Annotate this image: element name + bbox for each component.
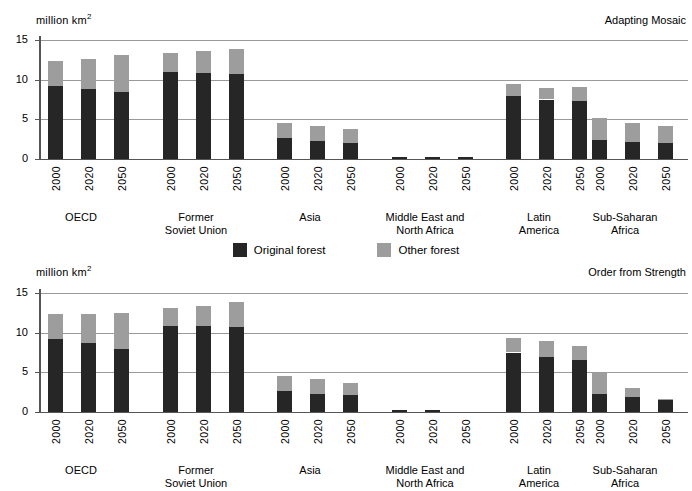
x-axis-tick-label-year: 2020	[312, 166, 324, 191]
legend-label-original-forest: Original forest	[254, 244, 326, 256]
bar-segment-other-forest	[48, 314, 63, 339]
y-axis-line	[39, 36, 41, 160]
bar-segment-original-forest	[343, 395, 358, 412]
bar-segment-other-forest	[539, 88, 554, 100]
y-axis-tick-label: 5	[4, 366, 28, 377]
bar-segment-original-forest	[163, 72, 178, 159]
x-axis-tick-label-year: 2000	[594, 166, 606, 191]
bar-segment-original-forest	[114, 349, 129, 412]
x-axis-tick-label-year: 2050	[116, 166, 128, 191]
bar-segment-original-forest	[506, 96, 521, 159]
x-axis-tick-label-year: 2020	[541, 419, 553, 444]
bar-segment-other-forest	[114, 313, 129, 349]
x-axis-group-label: OECD	[21, 211, 141, 224]
x-axis-tick-label-year: 2000	[165, 166, 177, 191]
x-axis-tick-label-year: 2020	[198, 166, 210, 191]
x-axis-tick-label-year: 2000	[279, 166, 291, 191]
bar-segment-other-forest	[277, 123, 292, 137]
bar-segment-original-forest	[163, 326, 178, 412]
legend-swatch-other-forest	[377, 243, 391, 257]
legend-entry-original-forest: Original forest	[233, 243, 326, 257]
gridline	[40, 293, 688, 294]
bar-segment-other-forest	[229, 302, 244, 327]
x-axis-tick-label-year: 2020	[627, 166, 639, 191]
x-axis-tick-label-year: 2050	[660, 419, 672, 444]
bar-segment-other-forest	[196, 51, 211, 73]
bar-segment-original-forest	[539, 100, 554, 160]
x-axis-group-label: OECD	[21, 464, 141, 477]
bar-segment-original-forest	[48, 86, 63, 159]
gridline	[40, 119, 688, 120]
y-axis-tick-label: 10	[4, 74, 28, 85]
bar-segment-original-forest	[310, 394, 325, 412]
bar-segment-other-forest	[163, 308, 178, 325]
x-axis-tick-label-year: 2000	[279, 419, 291, 444]
bar-segment-other-forest	[114, 55, 129, 92]
x-axis-group-label: Middle East and North Africa	[365, 211, 485, 237]
y-axis-tick-label: 5	[4, 113, 28, 124]
bar-segment-other-forest	[625, 123, 640, 143]
x-axis-tick-label-year: 2050	[231, 419, 243, 444]
bar-segment-other-forest	[343, 383, 358, 396]
y-axis-tick-label: 0	[4, 406, 28, 417]
x-axis-tick-label-year: 2000	[508, 419, 520, 444]
x-axis-tick-label-year: 2020	[427, 166, 439, 191]
legend-swatch-original-forest	[233, 243, 247, 257]
bar-segment-other-forest	[81, 314, 96, 343]
x-axis-group-label: Sub-Saharan Africa	[565, 464, 685, 490]
bar-segment-original-forest	[572, 360, 587, 412]
bar-segment-original-forest	[114, 92, 129, 159]
x-axis-tick-label-year: 2000	[165, 419, 177, 444]
bar-segment-original-forest	[81, 89, 96, 159]
x-axis-tick-label-year: 2000	[394, 166, 406, 191]
gridline	[40, 40, 688, 41]
x-axis-tick-label-year: 2000	[508, 166, 520, 191]
bar-segment-other-forest	[163, 53, 178, 71]
y-axis-tick-label: 15	[4, 34, 28, 45]
x-axis-group-label: Asia	[250, 464, 370, 477]
x-axis-tick-label-year: 2020	[312, 419, 324, 444]
gridline	[40, 333, 688, 334]
bar-segment-other-forest	[81, 59, 96, 89]
bar-segment-other-forest	[343, 129, 358, 143]
legend-label-other-forest: Other forest	[398, 244, 459, 256]
chart-panel-order-from-strength: million km2 Order from Strength 15105020…	[0, 258, 692, 491]
x-axis-group-label: Asia	[250, 211, 370, 224]
x-axis-tick-label-year: 2050	[345, 166, 357, 191]
bar-segment-other-forest	[229, 49, 244, 74]
x-axis-tick-label-year: 2000	[50, 419, 62, 444]
x-axis-tick-label-year: 2050	[460, 166, 472, 191]
x-axis-tick-label-year: 2050	[660, 166, 672, 191]
x-axis-tick-label-year: 2020	[198, 419, 210, 444]
bar-segment-other-forest	[48, 61, 63, 86]
bar-segment-original-forest	[310, 141, 325, 159]
bar-segment-original-forest	[506, 353, 521, 413]
x-axis-tick-label-year: 2050	[116, 419, 128, 444]
bar-segment-original-forest	[592, 140, 607, 159]
x-axis-tick-label-year: 2020	[627, 419, 639, 444]
x-axis-tick-label-year: 2050	[231, 166, 243, 191]
y-axis-tick-label: 10	[4, 327, 28, 338]
bar-segment-other-forest	[196, 306, 211, 327]
bar-segment-original-forest	[196, 73, 211, 159]
chart-legend: Original forest Other forest	[0, 240, 692, 260]
x-axis-tick-label-year: 2020	[83, 166, 95, 191]
bar-segment-other-forest	[658, 399, 673, 401]
chart-panel-adapting-mosaic: million km2 Adapting Mosaic 151050200020…	[0, 0, 692, 245]
bar-segment-other-forest	[592, 118, 607, 140]
x-axis-tick-label-year: 2050	[345, 419, 357, 444]
x-axis-group-label: Middle East and North Africa	[365, 464, 485, 490]
bar-segment-other-forest	[310, 379, 325, 393]
bar-segment-other-forest	[277, 376, 292, 391]
bar-segment-other-forest	[592, 373, 607, 394]
x-axis-tick-label-year: 2050	[574, 419, 586, 444]
bar-segment-other-forest	[572, 87, 587, 101]
bar-segment-original-forest	[229, 327, 244, 412]
bar-segment-original-forest	[229, 74, 244, 159]
bar-segment-original-forest	[658, 143, 673, 159]
x-axis-tick-label-year: 2000	[594, 419, 606, 444]
bar-segment-other-forest	[506, 338, 521, 352]
bar-segment-original-forest	[625, 397, 640, 412]
bar-segment-original-forest	[81, 343, 96, 412]
x-axis-group-label: Former Soviet Union	[136, 464, 256, 490]
